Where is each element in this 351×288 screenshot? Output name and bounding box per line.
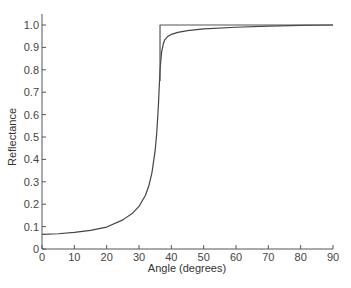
y-tick-label: 0.3 [24,176,39,188]
y-tick-label: 0.9 [24,41,39,53]
x-tick-label: 70 [262,251,274,263]
ideal-step-line [160,25,333,81]
reflectance-chart: 010203040506070809000.10.20.30.40.50.60.… [0,0,351,288]
x-tick-label: 0 [39,251,45,263]
x-tick-label: 20 [101,251,113,263]
y-tick-label: 1.0 [24,19,39,31]
x-tick-label: 10 [68,251,80,263]
y-axis-label: Reflectance [6,108,18,166]
y-tick-label: 0.6 [24,109,39,121]
y-tick-label: 0.4 [24,153,39,165]
y-tick-label: 0 [33,243,39,255]
x-tick-label: 60 [230,251,242,263]
y-tick-label: 0.2 [24,198,39,210]
y-tick-label: 0.8 [24,64,39,76]
x-tick-label: 30 [133,251,145,263]
x-axis-label: Angle (degrees) [148,262,226,274]
x-tick-label: 80 [295,251,307,263]
axes: 010203040506070809000.10.20.30.40.50.60.… [24,14,339,263]
y-tick-label: 0.1 [24,221,39,233]
y-tick-label: 0.7 [24,86,39,98]
reflectance-curve [42,25,333,234]
plot-area [42,25,333,234]
y-tick-label: 0.5 [24,131,39,143]
x-tick-label: 90 [327,251,339,263]
